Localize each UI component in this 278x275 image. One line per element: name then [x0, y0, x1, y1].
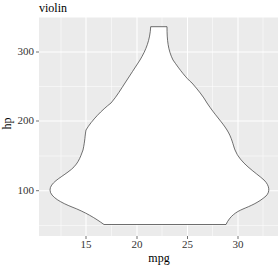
- x-axis-label: mpg: [144, 251, 174, 266]
- x-tick-30: 30: [223, 238, 253, 250]
- y-axis-label: hp: [0, 113, 15, 135]
- y-tick-100: 100: [6, 184, 34, 196]
- plot-area: [0, 0, 278, 275]
- x-tick-20: 20: [122, 238, 152, 250]
- x-tick-25: 25: [173, 238, 203, 250]
- x-tick-15: 15: [71, 238, 101, 250]
- y-tick-300: 300: [6, 45, 34, 57]
